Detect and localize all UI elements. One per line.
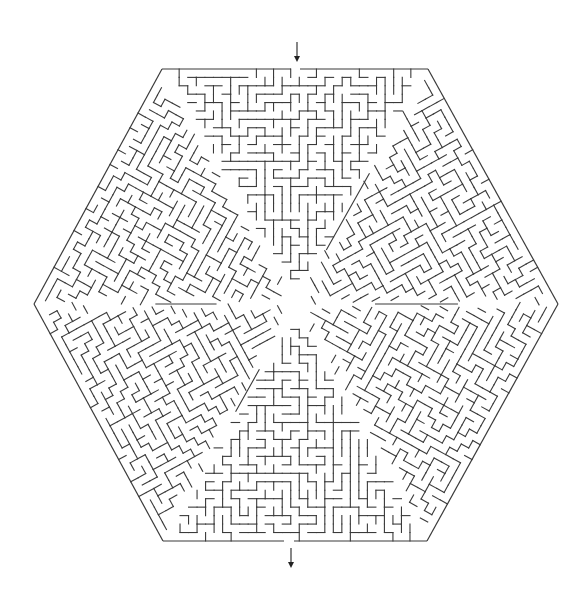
maze-wall (141, 136, 145, 143)
maze-wall (483, 221, 487, 228)
maze-wall (136, 162, 140, 169)
maze-wall (153, 102, 160, 106)
maze-wall (233, 330, 237, 337)
maze-wall (462, 319, 469, 323)
maze-wall (141, 424, 148, 428)
maze-wall (436, 272, 443, 276)
maze-wall (124, 184, 128, 191)
maze-wall (130, 315, 137, 319)
maze-wall (139, 492, 146, 496)
maze-wall (137, 275, 144, 279)
maze-wall (240, 264, 247, 268)
maze-wall (477, 426, 481, 433)
maze-wall (417, 167, 424, 171)
maze-wall (495, 358, 499, 365)
maze-wall (165, 223, 172, 227)
maze-walls (45, 69, 546, 541)
maze-wall (485, 273, 492, 277)
maze-wall (147, 178, 151, 185)
maze-wall (206, 274, 213, 278)
maze-wall (474, 316, 481, 320)
maze-wall (165, 235, 169, 242)
maze-wall (438, 451, 445, 455)
maze-wall (462, 418, 466, 425)
maze-wall (454, 252, 461, 256)
maze-wall (81, 355, 85, 362)
maze-wall (156, 420, 160, 427)
maze-wall (423, 461, 430, 465)
maze-wall (451, 409, 458, 413)
maze-wall (70, 352, 74, 359)
maze-wall (423, 254, 427, 261)
maze-wall (140, 181, 147, 185)
maze-wall (332, 355, 336, 362)
maze-wall (177, 389, 181, 396)
maze-wall (183, 449, 190, 453)
maze-wall (101, 209, 105, 216)
maze-wall (249, 356, 256, 360)
maze-wall (267, 336, 274, 340)
maze-wall (441, 211, 448, 215)
maze-wall (91, 280, 95, 287)
maze-wall (215, 369, 219, 376)
maze-wall (181, 186, 185, 193)
maze-wall (367, 326, 371, 333)
maze-wall (99, 273, 106, 277)
maze-wall (252, 325, 259, 329)
maze-wall (164, 111, 168, 118)
maze-wall (444, 204, 448, 211)
maze-wall (378, 342, 382, 349)
maze-wall (260, 340, 267, 344)
maze-wall (173, 201, 177, 208)
maze-wall (72, 280, 76, 287)
maze-wall (365, 196, 372, 200)
maze-wall (451, 315, 455, 322)
maze-wall (441, 367, 445, 374)
maze-wall (444, 485, 448, 492)
maze-wall (161, 249, 168, 253)
maze-wall (504, 276, 508, 283)
maze-wall (189, 392, 193, 399)
arrow-head (294, 56, 300, 62)
maze-wall (223, 402, 227, 409)
maze-wall (430, 231, 434, 238)
maze-wall (372, 192, 379, 196)
maze-wall (398, 273, 405, 277)
maze-wall (472, 236, 476, 243)
maze-wall (422, 374, 429, 378)
maze-wall (322, 281, 326, 288)
maze-wall (255, 284, 259, 291)
maze-wall (370, 338, 374, 345)
maze-wall (154, 507, 158, 514)
maze-wall (186, 168, 193, 172)
maze-wall (496, 339, 500, 346)
maze-wall (172, 103, 179, 107)
maze-wall (166, 401, 173, 405)
maze-wall (165, 363, 172, 367)
maze-wall (192, 228, 199, 232)
maze-wall (527, 325, 534, 329)
maze-wall (168, 253, 175, 257)
maze-wall (158, 515, 162, 522)
maze-wall (228, 304, 232, 311)
maze-wall (152, 151, 156, 158)
maze-wall (390, 278, 397, 282)
maze-wall (394, 165, 398, 172)
maze-wall (85, 344, 89, 351)
maze-wall (519, 268, 523, 275)
maze-wall (511, 329, 515, 336)
maze-wall (223, 207, 230, 211)
maze-wall (348, 276, 352, 283)
maze-wall (249, 360, 253, 367)
maze-wall (410, 389, 414, 396)
maze-wall (374, 330, 378, 337)
maze-wall (393, 331, 397, 338)
maze-wall (392, 369, 396, 376)
maze-wall (65, 321, 72, 325)
maze-wall (146, 345, 153, 349)
maze-wall (187, 438, 194, 442)
maze-wall (482, 179, 489, 183)
maze-wall (233, 326, 240, 330)
maze-wall (332, 344, 339, 348)
maze-wall (357, 287, 364, 291)
